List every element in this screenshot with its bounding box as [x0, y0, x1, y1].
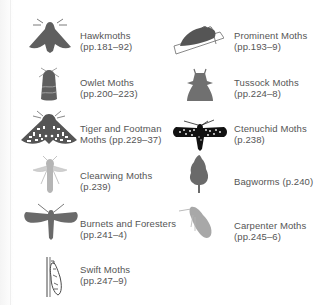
family-pages: (pp.181–92) [80, 41, 132, 53]
bagworm-icon [188, 155, 210, 195]
family-name: Carpenter Moths [234, 220, 306, 232]
carpenter-moth-icon [179, 205, 219, 241]
family-pages: (pp.247–9) [80, 275, 127, 287]
prominent-moth-icon [172, 24, 224, 56]
family-name: Prominent Moths [234, 30, 307, 42]
burnet-moth-icon [22, 202, 80, 242]
family-pages: (p.239) [80, 181, 111, 193]
family-pages: (pp.245–6) [234, 231, 281, 243]
family-pages: (pp.200–223) [80, 88, 138, 100]
clearwing-moth-icon [31, 156, 69, 196]
family-pages: (pp.241–4) [80, 229, 127, 241]
family-pages: Moths (pp.229–37) [80, 134, 161, 146]
ctenuchid-moth-icon [170, 119, 230, 151]
family-pages: (p.238) [234, 134, 265, 146]
page-curl-line [10, 0, 11, 305]
tiger-moth-icon [19, 110, 79, 146]
family-name: Burnets and Foresters [80, 218, 176, 230]
family-name: Tiger and Footman [80, 123, 162, 135]
family-name: Tussock Moths [234, 77, 299, 89]
family-name: Owlet Moths [80, 77, 134, 89]
family-name: Swift Moths [80, 264, 130, 276]
swift-moth-icon [44, 255, 64, 299]
owlet-moth-icon [38, 67, 60, 103]
family-pages: (pp.224–8) [234, 88, 281, 100]
tussock-moth-icon [185, 67, 215, 103]
family-pages: (pp.193–9) [234, 41, 281, 53]
page-gutter-shadow [0, 0, 14, 305]
family-name: Bagworms (p.240) [234, 176, 313, 188]
hawkmoth-icon [27, 17, 73, 53]
family-name: Hawkmoths [80, 30, 131, 42]
family-name: Ctenuchid Moths [234, 123, 307, 135]
family-name: Clearwing Moths [80, 170, 152, 182]
